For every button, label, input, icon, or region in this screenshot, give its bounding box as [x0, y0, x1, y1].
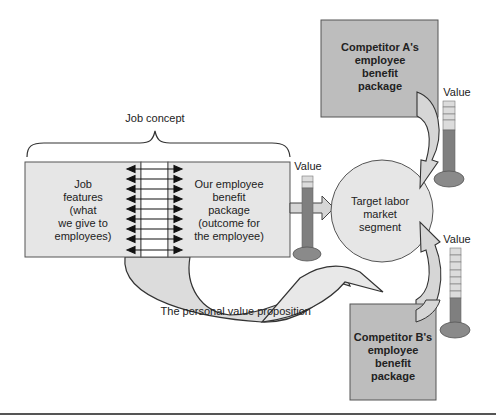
job-concept-brace [27, 131, 290, 157]
svg-text:Competitor B's: Competitor B's [354, 331, 432, 343]
competitor-b-value-gauge: Value [440, 233, 471, 338]
value-label: Value [443, 86, 470, 98]
svg-text:Job: Job [74, 178, 92, 190]
value-label: Value [443, 233, 470, 245]
svg-text:Competitor A's: Competitor A's [341, 41, 419, 53]
svg-text:employee: employee [355, 54, 406, 66]
svg-text:benefit: benefit [375, 357, 411, 369]
svg-text:Target labor: Target labor [351, 195, 409, 207]
svg-text:employee: employee [368, 344, 419, 356]
svg-text:benefit: benefit [212, 191, 245, 203]
personal-value-proposition-label: The personal value proposition [161, 305, 311, 317]
svg-text:the employee): the employee) [194, 230, 264, 242]
svg-text:package: package [208, 204, 250, 216]
benefit-value-diagram: Job concept Job features (what we give t… [0, 0, 496, 417]
bottom-rule [0, 413, 496, 415]
svg-text:Our employee: Our employee [194, 178, 263, 190]
svg-text:market: market [363, 208, 397, 220]
svg-text:package: package [358, 80, 402, 92]
svg-text:segment: segment [359, 221, 401, 233]
svg-text:(what: (what [70, 204, 97, 216]
svg-text:(outcome for: (outcome for [198, 217, 260, 229]
svg-text:we give to: we give to [57, 217, 108, 229]
value-label: Value [294, 160, 321, 172]
svg-text:package: package [371, 370, 415, 382]
svg-text:benefit: benefit [362, 67, 398, 79]
svg-text:features: features [63, 191, 103, 203]
job-concept-label: Job concept [125, 112, 184, 124]
svg-text:employees): employees) [55, 230, 112, 242]
